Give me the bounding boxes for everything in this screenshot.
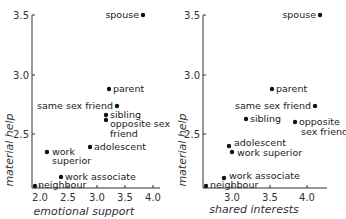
- point-label: same sex friend: [235, 100, 311, 111]
- point-neighbour: [204, 184, 208, 188]
- point-label: spouse: [282, 9, 316, 20]
- chart-shared-interests: 3.5 3.0 2.5 3.0 3.5 4.0 material help sh…: [0, 0, 346, 219]
- point-label: sibling: [250, 113, 281, 124]
- point-work-superior: [230, 150, 234, 154]
- point-opposite-sex-friend: [293, 120, 297, 124]
- point-label: sex friend: [301, 126, 346, 137]
- x-tick-label: 3.0: [224, 192, 240, 203]
- y-tick-label: 3.5: [184, 10, 200, 21]
- y-axis-title: material help: [176, 113, 189, 186]
- x-tick-label: 4.0: [299, 192, 315, 203]
- point-label: work superior: [237, 147, 302, 158]
- y-tick-label: 3.0: [184, 70, 200, 81]
- x-axis-title: shared interests: [209, 203, 299, 216]
- scatter-plot-right: 3.5 3.0 2.5 3.0 3.5 4.0 material help sh…: [0, 0, 346, 219]
- point-adolescent: [227, 144, 231, 148]
- point-label: parent: [276, 83, 307, 94]
- point-parent: [270, 87, 274, 91]
- point-spouse: [318, 13, 322, 17]
- point-sibling: [244, 117, 248, 121]
- point-label: neighbour: [210, 179, 258, 190]
- x-tick-label: 3.5: [262, 192, 278, 203]
- point-same-sex-friend: [313, 104, 317, 108]
